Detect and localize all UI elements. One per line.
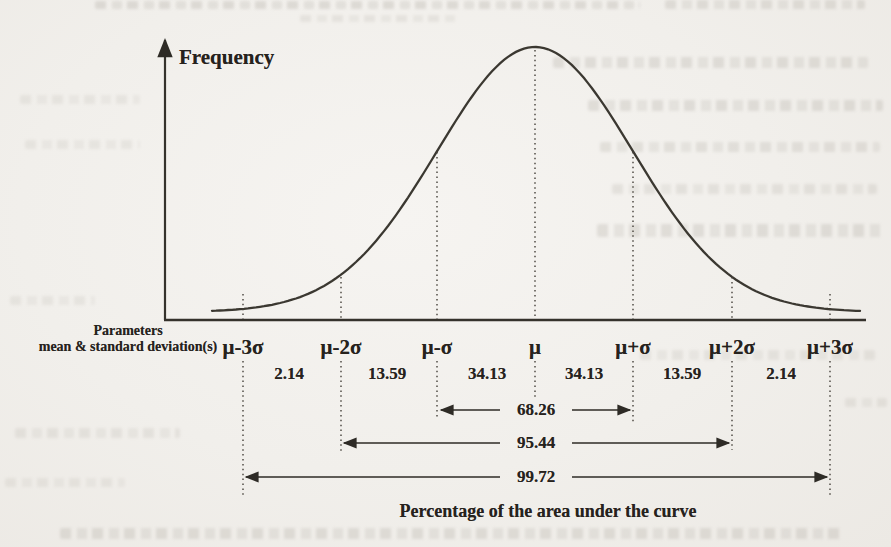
parameters-label-line1: Parameters (28, 323, 228, 339)
range-percent-99: 99.72 (517, 467, 555, 487)
gaussian-curve (212, 47, 860, 311)
figure-caption: Percentage of the area under the curve (400, 501, 697, 522)
tick-mu-plus-2sigma: μ+2σ (709, 335, 755, 360)
segment-percent-5: 13.59 (663, 364, 701, 384)
normal-distribution-figure (0, 0, 891, 547)
tick-mu: μ (529, 335, 541, 360)
segment-percent-3: 34.13 (468, 364, 506, 384)
tick-mu-minus-3sigma: μ-3σ (223, 335, 264, 360)
tick-mu-minus-2sigma: μ-2σ (321, 335, 362, 360)
x-axis-parameters-label: Parameters mean & standard deviation(s) (28, 323, 228, 355)
scanned-figure-page: Frequency Parameters mean & standard dev… (0, 0, 891, 547)
segment-percent-1: 2.14 (274, 364, 304, 384)
range-percent-68: 68.26 (517, 400, 555, 420)
sigma-guide-lines-upper (243, 50, 830, 319)
segment-percent-4: 34.13 (565, 364, 603, 384)
range-percent-95: 95.44 (517, 433, 555, 453)
segment-percent-2: 13.59 (368, 364, 406, 384)
tick-mu-plus-3sigma: μ+3σ (807, 335, 853, 360)
parameters-label-line2: mean & standard deviation(s) (28, 339, 228, 355)
tick-mu-plus-sigma: μ+σ (615, 335, 650, 360)
tick-mu-minus-sigma: μ-σ (422, 335, 452, 360)
segment-percent-6: 2.14 (766, 364, 796, 384)
y-axis-label: Frequency (179, 45, 274, 70)
